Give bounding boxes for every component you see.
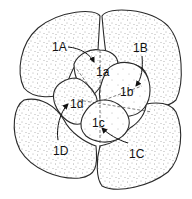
label-1b: 1b	[120, 85, 134, 99]
label-1d: 1d	[70, 97, 83, 111]
label-1B: 1B	[133, 41, 148, 55]
label-1c: 1c	[92, 116, 105, 130]
label-1a: 1a	[96, 65, 110, 79]
label-1A: 1A	[52, 40, 67, 54]
label-1D: 1D	[53, 144, 69, 158]
embryo-diagram: 1A 1B 1C 1D 1a 1b 1c 1d	[0, 0, 192, 199]
label-1C: 1C	[129, 147, 145, 161]
